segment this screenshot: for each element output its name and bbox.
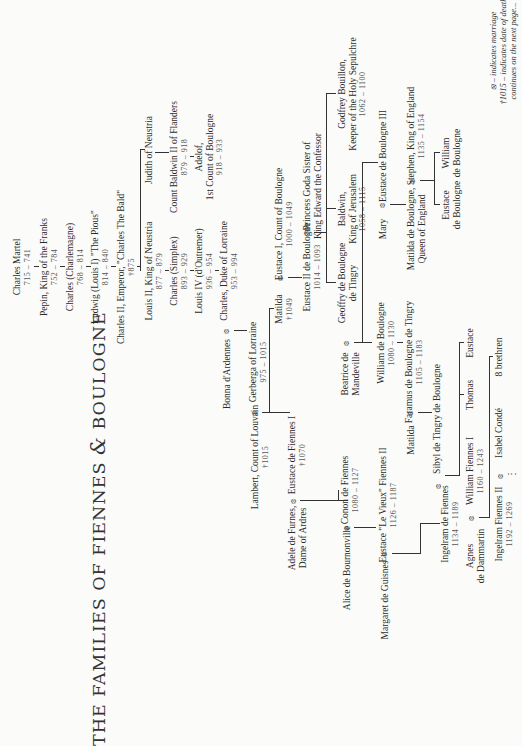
person-dates: †1049 bbox=[285, 294, 296, 324]
descent-line bbox=[397, 342, 403, 343]
marriage-line bbox=[479, 517, 489, 518]
person-dates: 1080 – 1127 bbox=[351, 456, 362, 525]
person-charles-ii: Charles II, Emperor, "Charles The Bald" … bbox=[116, 190, 137, 344]
descent-line bbox=[362, 162, 378, 163]
person-name: Beatrice de bbox=[340, 352, 351, 395]
sibling-line bbox=[140, 149, 141, 271]
person-matilda-queen: Matilda de Boulogne, Queen of England bbox=[406, 188, 427, 271]
descent-line bbox=[459, 342, 464, 343]
person-name: Judith of Neustria bbox=[144, 116, 155, 184]
person-sibyl: Sibyl de Tingry de Boulogne bbox=[432, 364, 443, 474]
marriage-icon: ⦻ bbox=[496, 474, 506, 479]
page-title: THE FAMILIES OF FIENNES & BOULOGNE bbox=[86, 416, 110, 746]
marriage-icon: ⦻ bbox=[378, 203, 388, 208]
person-dates: 814 – 840 bbox=[101, 210, 112, 324]
person-stephen: Stephen, King of England 1135 – 1154 bbox=[406, 87, 427, 186]
person-name: Ludwig (Louis I) "The Pious" bbox=[90, 210, 101, 324]
person-name: Princess Goda Sister of bbox=[302, 133, 313, 239]
legend-continues: continues on the next page... bbox=[508, 0, 518, 106]
person-dates: 975 – 1015 bbox=[259, 322, 270, 403]
marriage-line bbox=[445, 475, 459, 476]
descent-line bbox=[326, 208, 336, 209]
person-name: Pepin, King of the Franks bbox=[39, 218, 50, 316]
person-name: Bonna d'Ardennes bbox=[222, 339, 233, 409]
person-adele: Adele de Furnes, Dame of Ardres bbox=[287, 506, 308, 571]
descent-line bbox=[420, 524, 421, 554]
person-agnes: Agnes de Dammartin bbox=[465, 529, 486, 584]
descent-line bbox=[434, 204, 440, 205]
person-title: King Edward the Confessor bbox=[313, 133, 324, 239]
person-eustace-son: Eustace de Boulogne bbox=[441, 181, 462, 229]
person-adelof: Adelof, 1st Count of Boulogne 918 – 933 bbox=[194, 114, 226, 200]
person-title: King of Jerusalem bbox=[348, 174, 359, 244]
person-eustace-i: Eustace I, Count of Boulogne 1000 – 1049 bbox=[274, 168, 295, 281]
person-name: Margaret de Guisnes bbox=[380, 561, 391, 640]
marriage-line bbox=[314, 232, 326, 233]
person-eustace-iii: Eustace de Boulogne III bbox=[378, 110, 389, 202]
person-goda: Princess Goda Sister of King Edward the … bbox=[302, 133, 323, 239]
person-name: Eustace de Fiennes I bbox=[287, 416, 298, 494]
person-dates: 918 – 933 bbox=[215, 114, 226, 200]
person-eustace-fiennes-i: Eustace de Fiennes I †1070 bbox=[287, 416, 308, 494]
person-name: Charles (Charlemagne) bbox=[65, 223, 76, 311]
descent-line bbox=[420, 523, 440, 524]
title-ampersand: & bbox=[86, 436, 110, 455]
person-charlemagne: Charles (Charlemagne) 768 – 814 bbox=[65, 223, 86, 311]
person-dates: 1135 – 1154 bbox=[417, 87, 428, 186]
descent-line bbox=[326, 93, 336, 94]
person-title: Mandeville bbox=[351, 352, 362, 395]
marriage-line bbox=[418, 412, 432, 413]
person-name: Matilda bbox=[406, 425, 417, 455]
person-conon: Conon de Fiennes 1080 – 1127 bbox=[340, 456, 361, 525]
person-name: Count Baldwin II of Flanders bbox=[169, 101, 180, 213]
marriage-icon: ⦻ bbox=[406, 411, 416, 416]
marriage-line bbox=[390, 204, 406, 205]
marriage-line bbox=[392, 553, 420, 554]
person-ingelram-ii: Ingelram Fiennes II 1192 – 1269 bbox=[494, 487, 515, 562]
person-name: Eustace "Le Vieux" Fiennes II bbox=[378, 447, 389, 562]
marriage-icon: ⦻ bbox=[380, 552, 390, 557]
person-name: Conon de Fiennes bbox=[340, 456, 351, 525]
person-charles-simplex: Charles (Simplex) 893 – 929 bbox=[169, 236, 190, 305]
person-name: Louis II, King of Neustria bbox=[144, 222, 155, 321]
person-title: Dame of Ardres bbox=[298, 506, 309, 571]
person-name: Faramus de Boulogne de Tingry bbox=[404, 301, 415, 423]
person-alice: Alice de Bournonville bbox=[342, 526, 353, 610]
marriage-icon: ⦻ bbox=[289, 499, 299, 504]
person-name: Eustace I, Count of Boulogne bbox=[274, 168, 285, 281]
marriage-line bbox=[155, 152, 169, 153]
marriage-line bbox=[420, 180, 434, 181]
person-pepin: Pepin, King of the Franks 752 – 784 bbox=[39, 218, 60, 316]
person-charles-martel: Charles Martel 715 – 741 bbox=[12, 239, 33, 296]
legend-marriage: ⦻ – indicates marriage bbox=[488, 0, 498, 106]
person-title: 1st Count of Boulogne bbox=[205, 114, 216, 200]
person-william-fiennes-i: William Fiennes I 1160 – 1243 bbox=[465, 437, 486, 505]
person-dates: †1015 bbox=[261, 405, 272, 509]
marriage-line bbox=[288, 277, 302, 278]
person-dates: 1000 – 1049 bbox=[285, 168, 296, 281]
legend-death: †1015 – indicates date of death bbox=[498, 0, 508, 106]
family-tree-canvas: THE FAMILIES OF FIENNES & BOULOGNE Charl… bbox=[0, 0, 522, 746]
person-name: Thomas bbox=[465, 380, 476, 411]
person-judith: Judith of Neustria bbox=[144, 116, 155, 184]
marriage-line bbox=[234, 330, 247, 331]
person-name: Geoffry de Boulogne bbox=[337, 243, 348, 324]
person-faramus: Faramus de Boulogne de Tingry 1105 – 118… bbox=[404, 301, 425, 423]
person-dates: 953 – 994 bbox=[230, 221, 241, 321]
person-name: Gerberga of Lorraine bbox=[248, 322, 259, 403]
person-dates: 1080 – 1130 bbox=[387, 302, 398, 383]
person-name: William bbox=[441, 129, 452, 177]
person-name: Eustace de Boulogne III bbox=[378, 110, 389, 202]
person-margaret: Margaret de Guisnes bbox=[380, 561, 391, 640]
marriage-icon: ⦻ bbox=[467, 516, 477, 521]
person-mary: Mary bbox=[378, 219, 389, 240]
person-name: Stephen, King of England bbox=[406, 87, 417, 186]
person-title: de Dammartin bbox=[476, 529, 487, 584]
person-matilda-2: Matilda bbox=[406, 425, 417, 455]
person-name: Matilda de Boulogne, bbox=[406, 188, 417, 271]
sibling-line bbox=[434, 153, 435, 205]
sibling-line bbox=[489, 357, 490, 518]
person-brethren: 8 brethren bbox=[494, 338, 505, 377]
title-part2: BOULOGNE bbox=[89, 311, 109, 436]
person-title: de Boulogne bbox=[452, 181, 463, 229]
